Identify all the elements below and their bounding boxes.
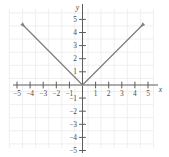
x-tick-label-pos1: 1 — [94, 89, 98, 98]
x-tick-labels: −5 −4 −3 −2 −1 1 2 3 4 5 — [13, 89, 150, 98]
x-tick-label-neg4: −4 — [26, 89, 34, 98]
coordinate-plane-plot: −5 −4 −3 −2 −1 1 2 3 4 5 5 4 3 2 1 −1 −2… — [0, 0, 169, 157]
y-tick-label-neg3: −3 — [69, 120, 77, 129]
y-tick-label-pos1: 1 — [73, 67, 77, 76]
x-tick-label-neg5: −5 — [13, 89, 21, 98]
x-tick-label-pos4: 4 — [133, 89, 137, 98]
y-tick-label-neg2: −2 — [69, 107, 77, 116]
x-tick-label-pos3: 3 — [120, 89, 124, 98]
y-tick-label-pos3: 3 — [73, 41, 77, 50]
y-tick-label-neg4: −4 — [69, 133, 77, 142]
y-tick-label-pos2: 2 — [73, 54, 77, 63]
y-tick-label-neg1: −1 — [69, 94, 77, 103]
x-tick-label-pos2: 2 — [107, 89, 111, 98]
y-tick-label-neg5: −5 — [69, 146, 77, 155]
x-tick-label-neg3: −3 — [39, 89, 47, 98]
y-tick-label-pos4: 4 — [73, 28, 77, 37]
graph-figure: −5 −4 −3 −2 −1 1 2 3 4 5 5 4 3 2 1 −1 −2… — [0, 0, 169, 157]
x-axis-label: x — [158, 85, 163, 94]
x-tick-label-pos5: 5 — [146, 89, 150, 98]
curve-right-branch — [83, 24, 144, 85]
y-tick-label-pos5: 5 — [73, 15, 77, 24]
x-tick-label-neg2: −2 — [52, 89, 60, 98]
y-axis-label: y — [75, 3, 80, 12]
grid-lines — [9, 9, 153, 148]
